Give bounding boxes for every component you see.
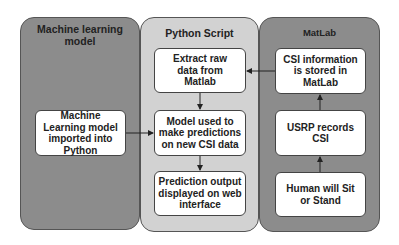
box-csi-stored: CSI information is stored in MatLab	[275, 48, 366, 94]
box-ml-model-imported: Machine Learning model imported into Pyt…	[35, 110, 126, 156]
panel-title-matlab: MatLab	[260, 27, 379, 39]
box-extract-raw-data: Extract raw data from Matlab	[154, 48, 246, 93]
panel-title-machine-learning-model: Machine learning model	[21, 23, 139, 47]
box-prediction-output: Prediction output displayed on web inter…	[154, 171, 246, 216]
box-usrp-records: USRP records CSI	[275, 110, 366, 156]
box-human-sit-stand: Human will Sit or Stand	[275, 172, 366, 217]
panel-title-python-script: Python Script	[141, 27, 258, 39]
box-model-predictions: Model used to make predictions on new CS…	[154, 110, 246, 156]
